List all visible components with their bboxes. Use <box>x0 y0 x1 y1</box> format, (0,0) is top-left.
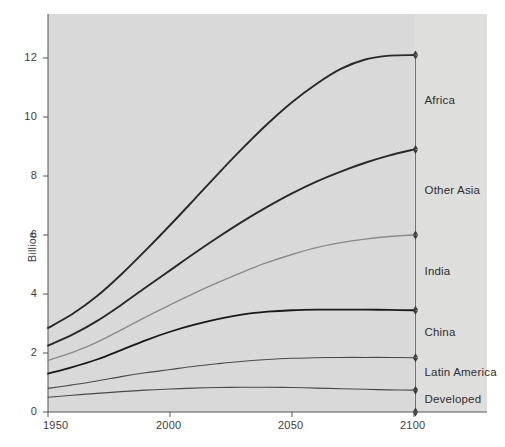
series-label-latin-america: Latin America <box>425 366 497 378</box>
band-arrow-down <box>413 390 418 394</box>
series-label-africa: Africa <box>425 94 456 106</box>
series-curve-latin-america <box>48 357 414 388</box>
x-tick-label-2100: 2100 <box>400 419 425 431</box>
band-arrow-up <box>413 51 418 55</box>
x-tick-label-2000: 2000 <box>156 419 181 431</box>
series-curve-china <box>48 310 414 374</box>
band-arrows-group <box>413 51 418 417</box>
band-arrow-up <box>413 386 418 390</box>
y-tick-label-0: 0 <box>7 405 37 417</box>
band-arrow-down <box>413 358 418 362</box>
series-group <box>48 55 414 397</box>
chart-svg <box>0 0 505 447</box>
axes-group <box>43 14 487 417</box>
series-curve-india <box>48 235 414 360</box>
series-label-china: China <box>425 326 456 338</box>
series-label-other-asia: Other Asia <box>425 184 481 196</box>
band-arrow-down <box>413 235 418 239</box>
series-curve-developed <box>48 387 414 397</box>
x-tick-label-2050: 2050 <box>278 419 303 431</box>
series-curve-africa <box>48 55 414 328</box>
band-arrow-up <box>413 306 418 310</box>
band-arrow-down <box>413 310 418 314</box>
band-arrow-up <box>413 408 418 412</box>
series-label-india: India <box>425 265 451 277</box>
y-tick-label-2: 2 <box>7 346 37 358</box>
band-arrow-down <box>413 55 418 59</box>
x-tick-label-1950: 1950 <box>43 419 68 431</box>
y-tick-label-12: 12 <box>7 51 37 63</box>
band-arrow-up <box>413 231 418 235</box>
band-arrow-up <box>413 353 418 357</box>
series-label-developed: Developed <box>425 393 482 405</box>
y-tick-label-4: 4 <box>7 287 37 299</box>
band-arrow-up <box>413 145 418 149</box>
y-axis-title: Billion <box>26 232 38 262</box>
y-tick-label-8: 8 <box>7 169 37 181</box>
chart-figure: 024681012 1950200020502100 AfricaOther A… <box>0 0 505 447</box>
band-arrow-down <box>413 150 418 154</box>
y-tick-label-10: 10 <box>7 110 37 122</box>
